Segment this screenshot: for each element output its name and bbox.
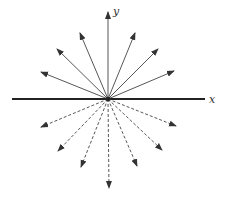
upper-solid-rays bbox=[41, 33, 174, 99]
solid-ray-arrow bbox=[108, 49, 158, 99]
dashed-ray-arrow bbox=[41, 99, 108, 127]
dashed-ray-arrow bbox=[81, 99, 108, 167]
ray-diagram: y x bbox=[0, 0, 227, 198]
x-axis-label: x bbox=[209, 93, 216, 106]
solid-ray-arrow bbox=[57, 49, 108, 99]
origin-point bbox=[106, 97, 110, 101]
y-axis-label: y bbox=[112, 5, 120, 18]
dashed-ray-arrow bbox=[58, 99, 108, 151]
dashed-ray-arrow bbox=[108, 99, 162, 150]
dashed-ray-arrow bbox=[108, 99, 109, 188]
lower-dashed-rays bbox=[41, 99, 176, 188]
